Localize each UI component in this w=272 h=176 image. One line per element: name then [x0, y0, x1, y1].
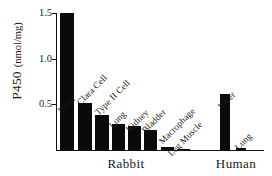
- y-axis-title: P450 (nmol/mg): [7, 0, 29, 131]
- y-axis-title-main: P450: [9, 71, 24, 100]
- y-axis-title-unit: (nmol/mg): [12, 22, 23, 67]
- y-tick-label-1.5: 1.5: [39, 8, 52, 19]
- y-tick-1.5: [52, 13, 57, 14]
- group-label-human: Human: [216, 156, 256, 172]
- y-axis-line: [56, 13, 57, 150]
- y-tick-1.0: [52, 59, 57, 60]
- bar-rabbit-liver: [59, 13, 75, 150]
- y-tick-label-0.5: 0.5: [39, 99, 52, 110]
- plot-area: 0.51.01.5 LiverClara CellType II CellLun…: [56, 13, 264, 150]
- x-axis-line: [56, 150, 264, 151]
- y-tick-label-1.0: 1.0: [39, 53, 52, 64]
- bar-rabbit-clara-cell: [77, 103, 93, 150]
- group-label-rabbit: Rabbit: [107, 156, 144, 172]
- p450-bar-chart: P450 (nmol/mg) 0.51.01.5 LiverClara Cell…: [0, 0, 272, 176]
- y-tick-0.5: [52, 104, 57, 105]
